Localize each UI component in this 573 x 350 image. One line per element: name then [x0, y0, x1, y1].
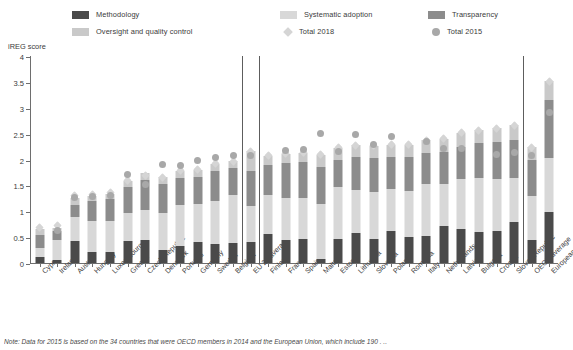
stacked-bar[interactable]	[510, 125, 519, 263]
bar-slot[interactable]: Ireland	[49, 56, 67, 263]
bar-segment	[264, 165, 273, 195]
bar-slot[interactable]: Finland	[259, 56, 277, 263]
bar-slot[interactable]: Latvia	[453, 56, 471, 263]
stacked-bar[interactable]	[316, 155, 325, 263]
bar-slot[interactable]: Greece	[119, 56, 137, 263]
stacked-bar[interactable]	[158, 177, 167, 263]
x-axis-label: Slovenia	[374, 269, 380, 275]
stacked-bar[interactable]	[211, 164, 220, 263]
total-2015-marker	[212, 154, 219, 161]
bar-slot[interactable]: Lithuania	[347, 56, 365, 263]
x-axis-label: Ireland	[57, 269, 63, 275]
stacked-bar[interactable]	[193, 170, 202, 263]
stacked-bar[interactable]	[527, 147, 536, 263]
x-axis-label: Luxembourg	[110, 269, 116, 275]
y-axis-tick-label: 3.5	[13, 78, 24, 87]
x-axis-label: Romania	[409, 269, 415, 275]
stacked-bar[interactable]	[369, 146, 378, 263]
stacked-bar[interactable]	[457, 133, 466, 263]
legend-total-2018[interactable]: Total 2018	[280, 25, 372, 38]
stacked-bar[interactable]	[387, 145, 396, 264]
x-axis-label: Netherlands	[444, 269, 450, 275]
x-axis-label: Slovak Republic	[514, 269, 520, 275]
bar-slot[interactable]: Portugal	[172, 56, 190, 263]
x-axis-label: OECD average	[532, 269, 538, 275]
y-axis-tick-label: 2.5	[13, 130, 24, 139]
bar-slot[interactable]: Croatia	[488, 56, 506, 263]
bar-slot[interactable]: Czech Republic	[136, 56, 154, 263]
x-axis-label: European Union	[549, 269, 555, 275]
bar-segment	[492, 179, 501, 231]
bar-slot[interactable]: Slovak Republic	[505, 56, 523, 263]
bar-segment	[106, 199, 115, 221]
legend-label: Systematic adoption	[304, 10, 372, 19]
bar-segment	[88, 201, 97, 220]
legend-systematic-adoption[interactable]: Systematic adoption	[280, 8, 372, 21]
bar-slot[interactable]: EU 27 average	[242, 56, 260, 263]
bar-slot[interactable]: European Union	[540, 56, 558, 263]
total-2015-marker	[317, 130, 324, 137]
bar-slot[interactable]: Germany	[189, 56, 207, 263]
stacked-bar[interactable]	[474, 130, 483, 263]
bar-segment	[316, 204, 325, 260]
bar-slot[interactable]: Cyprus	[31, 56, 49, 263]
legend-total-2015[interactable]: Total 2015	[428, 25, 498, 38]
stacked-bar[interactable]	[404, 145, 413, 264]
bar-segment	[510, 140, 519, 178]
stacked-bar[interactable]	[176, 171, 185, 263]
bar-slot[interactable]: Slovenia	[365, 56, 383, 263]
bar-slot[interactable]: Luxembourg	[101, 56, 119, 263]
bar-segment	[334, 239, 343, 263]
legend-oversight[interactable]: Oversight and quality control	[72, 25, 193, 38]
stacked-bar[interactable]	[492, 128, 501, 263]
bar-slot[interactable]: Spain	[295, 56, 313, 263]
bar-slot[interactable]: Malta	[312, 56, 330, 263]
bar-slot[interactable]: Sweden	[207, 56, 225, 263]
bar-segment	[123, 213, 132, 241]
stacked-bar[interactable]	[123, 181, 132, 263]
bar-segment	[351, 233, 360, 263]
legend-transparency[interactable]: Transparency	[428, 8, 498, 21]
bar-slot[interactable]: Hungary	[84, 56, 102, 263]
y-axis-tick	[26, 186, 30, 187]
bar-slot[interactable]: Romania	[400, 56, 418, 263]
stacked-bar[interactable]	[264, 156, 273, 263]
stacked-bar[interactable]	[88, 196, 97, 263]
stacked-bar[interactable]	[106, 194, 115, 263]
bar-segment	[474, 178, 483, 232]
bar-segment	[281, 198, 290, 240]
stacked-bar[interactable]	[439, 139, 448, 263]
bar-slot[interactable]: Estonia	[330, 56, 348, 263]
bar-slot[interactable]: Poland	[382, 56, 400, 263]
chart-footnote: Note: Data for 2015 is based on the 34 c…	[4, 338, 570, 350]
bar-slot[interactable]: Belgium	[224, 56, 242, 263]
bar-slot[interactable]: Denmark	[154, 56, 172, 263]
stacked-bar[interactable]	[351, 145, 360, 263]
legend-methodology[interactable]: Methodology	[72, 8, 193, 21]
x-axis-label: Estonia	[338, 269, 344, 275]
stacked-bar[interactable]	[299, 153, 308, 263]
x-axis-label: Italy	[426, 269, 432, 275]
bar-segment	[211, 201, 220, 244]
bar-slot[interactable]: Netherlands	[435, 56, 453, 263]
y-axis-tick	[26, 212, 30, 213]
stacked-bar[interactable]	[281, 154, 290, 263]
bar-segment	[193, 242, 202, 263]
bar-slot[interactable]: Bulgaria	[470, 56, 488, 263]
stacked-bar[interactable]	[35, 229, 44, 263]
x-axis-tick	[374, 263, 375, 267]
y-axis-tick-label: 4	[20, 53, 24, 62]
bar-segment	[229, 243, 238, 263]
legend-column: TransparencyTotal 2015	[428, 8, 498, 42]
bar-segment	[211, 244, 220, 263]
stacked-bar[interactable]	[70, 198, 79, 263]
bar-slot[interactable]: Austria	[66, 56, 84, 263]
bar-slot[interactable]: France	[277, 56, 295, 263]
bar-slot[interactable]: OECD average	[523, 56, 541, 263]
stacked-bar[interactable]	[422, 140, 431, 263]
stacked-bar[interactable]	[229, 161, 238, 263]
stacked-bar[interactable]	[334, 148, 343, 263]
total-2015-marker	[335, 148, 342, 155]
stacked-bar[interactable]	[246, 151, 255, 263]
bar-slot[interactable]: Italy	[417, 56, 435, 263]
